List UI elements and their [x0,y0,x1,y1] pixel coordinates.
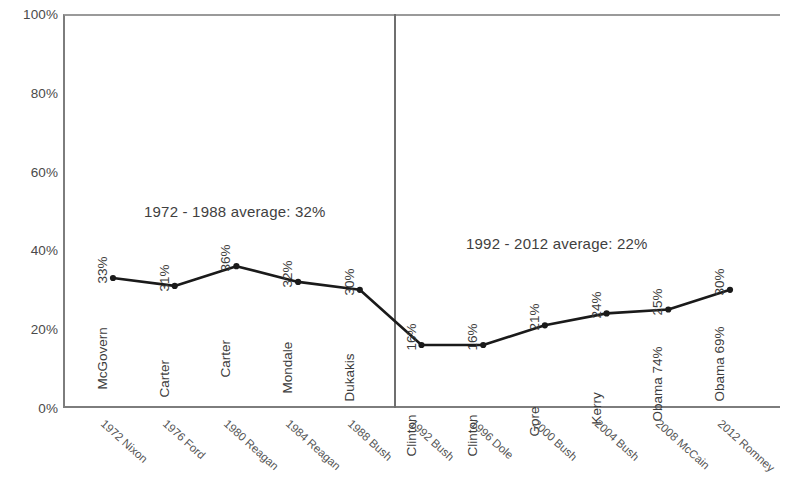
point-value-label: 32% [281,260,295,287]
point-value-label: 16% [404,323,418,350]
data-point-marker [480,342,486,348]
data-point-marker [295,279,301,285]
data-point-marker [172,283,178,289]
data-point-marker [418,342,424,348]
point-name-label: Obama 74% [651,346,665,421]
data-point-marker [357,287,363,293]
annotation-right-average: 1992 - 2012 average: 22% [466,235,648,252]
point-name-label: Carter [157,360,171,398]
data-point-marker [542,322,548,328]
series-line-layer [0,0,792,482]
data-point-marker [727,287,733,293]
point-value-label: 25% [651,288,665,315]
point-name-label: Mondale [281,342,295,394]
data-point-marker [665,306,671,312]
point-value-label: 21% [527,304,541,331]
point-value-label: 33% [96,256,110,283]
point-value-label: 16% [466,323,480,350]
point-value-label: 31% [157,264,171,291]
point-name-label: Carter [219,340,233,378]
data-point-marker [110,275,116,281]
data-point-marker [233,263,239,269]
annotation-left-average: 1972 - 1988 average: 32% [144,203,326,220]
point-value-label: 36% [219,245,233,272]
point-value-label: 30% [342,268,356,295]
data-point-marker [604,310,610,316]
point-value-label: 30% [713,268,727,295]
chart-container: 100% 80% 60% 40% 20% 0% 33%McGovern31%Ca… [0,0,792,482]
series-polyline [113,266,730,345]
point-name-label: Dukakis [342,353,356,401]
point-value-label: 24% [589,292,603,319]
point-name-label: Obama 69% [713,326,727,401]
point-name-label: McGovern [96,327,110,389]
